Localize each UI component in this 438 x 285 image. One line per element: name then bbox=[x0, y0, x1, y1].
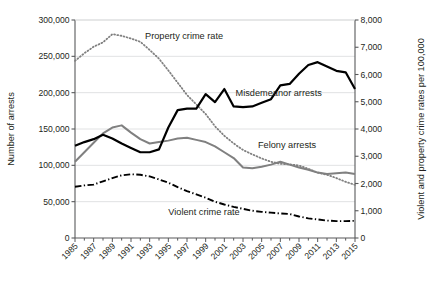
series-label-misdemeanor-arrests: Misdemeanor arrests bbox=[236, 88, 323, 98]
series-label-felony-arrests: Felony arrests bbox=[258, 140, 317, 150]
axis-left-tick-label: 150,000 bbox=[38, 124, 69, 134]
axis-right-tick-label: 4,000 bbox=[361, 124, 383, 134]
axis-right-tick-label: 2,000 bbox=[361, 179, 383, 189]
axis-left-tick-label: 250,000 bbox=[38, 51, 69, 61]
axis-right-tick-label: 5,000 bbox=[361, 97, 383, 107]
axis-left-tick-label: 100,000 bbox=[38, 160, 69, 170]
axis-right-tick-label: 6,000 bbox=[361, 70, 383, 80]
chart-container: 050,000100,000150,000200,000250,000300,0… bbox=[0, 0, 438, 285]
axis-left-tick-label: 300,000 bbox=[38, 15, 69, 25]
axis-right-tick-label: 7,000 bbox=[361, 42, 383, 52]
axis-right-tick-label: 8,000 bbox=[361, 15, 383, 25]
axis-left-title: Number of arrests bbox=[6, 92, 16, 166]
axis-right-tick-label: 1,000 bbox=[361, 206, 383, 216]
chart-svg: 050,000100,000150,000200,000250,000300,0… bbox=[0, 0, 438, 285]
axis-left-tick-label: 0 bbox=[65, 233, 70, 243]
axis-right-tick-label: 3,000 bbox=[361, 151, 383, 161]
axis-left-tick-label: 200,000 bbox=[38, 88, 69, 98]
series-label-property-crime-rate: Property crime rate bbox=[145, 31, 223, 41]
axis-right-title: Violent and property crime rates per 100… bbox=[416, 38, 426, 220]
series-label-violent-crime-rate: Violent crime rate bbox=[168, 207, 239, 217]
axis-right-tick-label: 0 bbox=[361, 233, 366, 243]
axis-left-tick-label: 50,000 bbox=[43, 197, 70, 207]
